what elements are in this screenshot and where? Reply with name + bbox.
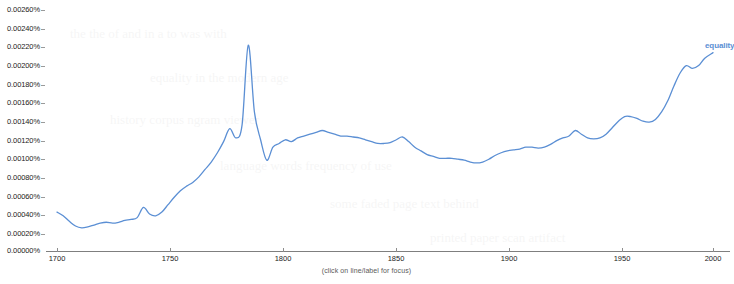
series-legend-label[interactable]: equality (705, 41, 734, 50)
series-line-equality[interactable] (57, 45, 713, 228)
chart-hint-caption: (click on line/label for focus) (0, 267, 733, 274)
